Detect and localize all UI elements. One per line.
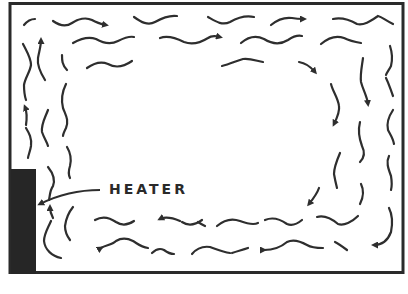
heater-label: HEATER (109, 181, 188, 197)
ceiling-currents-row1 (24, 16, 393, 26)
heater (11, 169, 36, 274)
floor-currents-row1 (95, 216, 358, 226)
room-outline (10, 4, 403, 273)
right-wall-currents (309, 46, 394, 245)
ceiling-currents-row3 (87, 59, 315, 72)
ceiling-currents-row2 (73, 36, 361, 44)
floor-currents-row2 (101, 239, 347, 254)
convection-diagram (0, 0, 408, 294)
